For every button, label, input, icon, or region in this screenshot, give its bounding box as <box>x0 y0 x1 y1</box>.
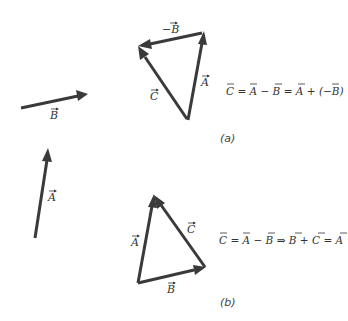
label-a-a: A <box>200 75 210 90</box>
equation-b: C = A − B ⇒ B + C = A <box>219 234 344 246</box>
svg-text:C: C <box>187 223 196 236</box>
label-c-a: C <box>150 89 159 104</box>
triangle-b <box>138 194 206 283</box>
label-b-b: B <box>166 282 176 297</box>
svg-text:A: A <box>200 76 209 89</box>
vector-b-standalone-label: B <box>49 108 59 123</box>
caption-a: (a) <box>220 132 235 145</box>
vector-b-standalone <box>21 90 88 108</box>
vector-a-standalone-label: A <box>47 190 57 205</box>
caption-b: (b) <box>220 296 236 309</box>
svg-text:C: C <box>150 90 159 103</box>
svg-text:−B: −B <box>162 23 179 36</box>
equation-a: C = A − B = A + (−B) <box>226 85 344 97</box>
triangle-a <box>138 31 207 120</box>
svg-text:A: A <box>130 236 139 249</box>
label-c-b: C <box>187 222 196 237</box>
svg-text:A: A <box>47 191 56 204</box>
label-a-b: A <box>130 235 140 250</box>
vector-subtraction-diagram: B A −B A C C = A − B <box>0 0 348 321</box>
svg-text:B: B <box>49 109 58 122</box>
svg-text:B: B <box>166 283 175 296</box>
label-neg-b-a: −B <box>162 22 179 37</box>
